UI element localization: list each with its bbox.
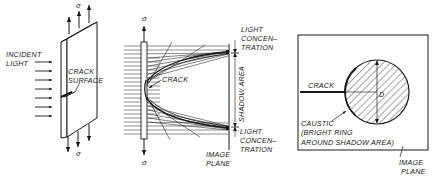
crack-surface-label-1: CRACK	[68, 67, 95, 76]
shadow-area-label: SHADOW AREA	[237, 66, 246, 122]
caustic-label-3: AROUND SHADOW AREA)	[300, 138, 394, 147]
light-concentration-bottom-label-1: LIGHT	[240, 127, 263, 136]
light-concentration-top-label-2: CONCEN–	[241, 34, 278, 43]
specimen-edge-view	[141, 42, 147, 139]
sigma-top-label: σ	[142, 15, 147, 23]
panel-ray-diagram: σ σ CRACK LIGHT CONCEN– TRATION SHADOW A…	[124, 15, 278, 168]
light-concentration-bottom-label-3: TRATION	[240, 145, 273, 154]
panel-image-plane-view: D CRACK CAUSTIC (BRIGHT RING AROUND SHAD…	[298, 35, 428, 176]
caustic-label-1: CAUSTIC	[301, 119, 335, 128]
diameter-label: D	[379, 90, 384, 99]
image-plane-label-2: PLANE	[401, 167, 426, 176]
image-plane-label-1: IMAGE	[206, 150, 230, 159]
incident-light-label-2: LIGHT	[6, 59, 29, 68]
crack-pointer	[149, 80, 161, 88]
light-concentration-top-label-1: LIGHT	[241, 25, 264, 34]
sigma-bottom-label: σ	[76, 150, 81, 158]
deflected-rays	[140, 42, 228, 140]
sigma-top-label: σ	[76, 2, 81, 10]
incident-light-arrows	[35, 62, 52, 116]
incident-light-label-1: INCIDENT	[6, 50, 42, 59]
image-plane-label-2: PLANE	[206, 159, 231, 168]
caustic-label-2: (BRIGHT RING	[301, 128, 353, 137]
light-concentration-top-label-3: TRATION	[241, 43, 274, 52]
crack-label: CRACK	[308, 81, 335, 90]
crack-surface-label-2: SURFACE	[68, 76, 103, 85]
caustics-diagram: σ σ INCIDENT LIGHT CRACK SURFACE	[0, 0, 433, 181]
crack-label: CRACK	[162, 75, 189, 84]
image-plane-label-1: IMAGE	[399, 158, 423, 167]
light-concentration-bottom-label-2: CONCEN–	[240, 136, 277, 145]
incident-rays	[124, 46, 228, 134]
panel-specimen: σ σ INCIDENT LIGHT CRACK SURFACE	[6, 2, 103, 158]
sigma-bottom-label: σ	[142, 159, 147, 167]
